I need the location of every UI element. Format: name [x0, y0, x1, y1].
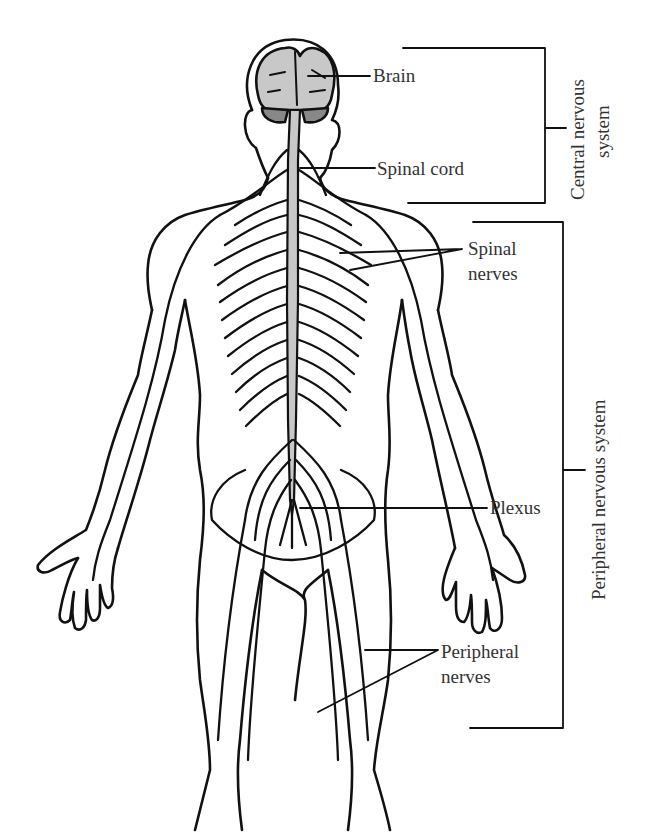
group-label-cns-1: Central nervous	[567, 79, 589, 200]
label-spinal-nerves-1: Spinal	[468, 238, 517, 260]
label-spinal-nerves-2: nerves	[468, 263, 518, 285]
label-peripheral-nerves-2: nerves	[441, 666, 491, 688]
group-label-pns: Peripheral nervous system	[588, 399, 610, 600]
label-plexus: Plexus	[490, 497, 541, 519]
nervous-system-figure	[0, 0, 658, 835]
leader-lines	[300, 48, 585, 728]
group-label-cns-2: system	[592, 105, 614, 158]
label-brain: Brain	[373, 65, 415, 87]
label-spinal-cord: Spinal cord	[377, 158, 464, 180]
spinal-cord-shape	[287, 110, 300, 515]
label-peripheral-nerves-1: Peripheral	[441, 641, 519, 663]
